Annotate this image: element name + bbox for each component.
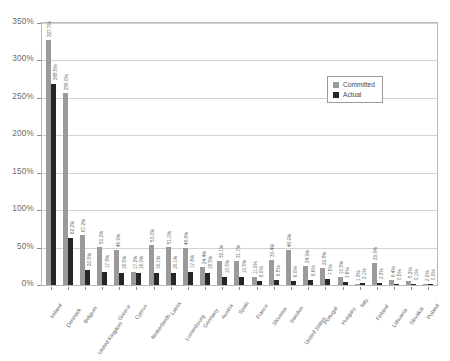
x-axis-tick-mark: [222, 287, 223, 290]
bar-value-label: 268.5%: [53, 64, 58, 80]
x-axis-category: Spain: [231, 287, 248, 361]
x-axis-tick-mark: [171, 287, 172, 290]
legend-swatch-actual-icon: [333, 92, 339, 98]
bar-value-label: 46.9%: [116, 234, 121, 247]
x-axis-category: Austria: [214, 287, 231, 361]
x-axis-category: Netherlands: [145, 287, 162, 361]
bar-value-label: 20.5%: [87, 253, 92, 266]
chart-legend: Committed Actual: [327, 76, 383, 103]
bar-group: 53.0%16.1%: [145, 23, 162, 285]
bar-group: 32.1%10.5%: [214, 23, 231, 285]
x-axis-tick-mark: [119, 287, 120, 290]
y-axis-tick: 150%: [0, 173, 41, 174]
x-axis-category: Poland: [420, 287, 437, 361]
bar-group: 256.0%62.2%: [59, 23, 76, 285]
bar-value-label: 16.0%: [138, 256, 143, 269]
bar-group: 6.4%0.5%: [385, 23, 402, 285]
x-axis-category: Lithuania: [385, 287, 402, 361]
bar-value-label: 16.1%: [156, 256, 161, 269]
x-axis-tick-mark: [343, 287, 344, 290]
bar-group: 22.8%7.5%: [317, 23, 334, 285]
bar-value-label: 10.5%: [224, 260, 229, 273]
x-axis-labels: IrelandDenmarkBelgiumUnited KingdomGreec…: [42, 287, 437, 361]
bar-value-label: 6.6%: [310, 266, 315, 276]
bar-value-label: 33.4%: [271, 244, 276, 257]
y-axis-tick-label: 100%: [12, 204, 34, 213]
bar-actual: 16.5%: [205, 273, 210, 285]
y-axis-tick-label: 300%: [12, 54, 34, 63]
x-axis-category: Luxembourg: [179, 287, 196, 361]
x-axis-tick-mark: [411, 287, 412, 290]
bar-actual: 20.5%: [85, 270, 90, 285]
bar-actual: 0.1%: [411, 284, 416, 285]
y-axis-tick: 100%: [0, 210, 41, 211]
bar-group: 327.7%268.5%: [42, 23, 59, 285]
bar-value-label: 2.1%: [362, 269, 367, 279]
x-axis-tick-mark: [325, 287, 326, 290]
y-axis-tick-label: 150%: [12, 167, 34, 176]
bar-value-label: 48.8%: [185, 232, 190, 245]
bar-group: 67.2%20.5%: [76, 23, 93, 285]
bar-group: 31.7%10.5%: [231, 23, 248, 285]
legend-swatch-committed-icon: [333, 82, 339, 88]
x-axis-category: Belgium: [76, 287, 93, 361]
bar-value-label: 24.9%: [305, 250, 310, 263]
x-axis-tick-mark: [257, 287, 258, 290]
bar-value-label: 51.0%: [167, 231, 172, 244]
x-axis-category: Hungary: [334, 287, 351, 361]
bar-value-label: 31.7%: [236, 245, 241, 258]
bar-actual: 10.5%: [239, 277, 244, 285]
y-axis-tick-label: 50%: [17, 242, 34, 251]
bar-value-label: 7.5%: [327, 265, 332, 275]
x-axis-category: Latvia: [162, 287, 179, 361]
x-axis-tick-label: Poland: [426, 303, 441, 320]
bar-value-label: 16.1%: [173, 256, 178, 269]
bar-value-label: 53.0%: [150, 229, 155, 242]
x-axis-tick-mark: [274, 287, 275, 290]
bar-value-label: 29.9%: [374, 247, 379, 260]
bar-actual: 6.0%: [291, 281, 296, 285]
y-axis-tick: 200%: [0, 135, 41, 136]
x-axis-category: United States: [300, 287, 317, 361]
y-axis-tick-label: 0%: [22, 279, 34, 288]
x-axis-category: Sweden: [282, 287, 299, 361]
bar-group: 24.9%6.6%: [300, 23, 317, 285]
y-axis-tick: 250%: [0, 98, 41, 99]
bar-committed: 29.9%: [372, 263, 377, 285]
bar-actual: 10.5%: [222, 277, 227, 285]
bar-value-label: 6.0%: [293, 266, 298, 276]
legend-label-committed: Committed: [343, 81, 375, 88]
bar-group: 1.3%2.1%: [351, 23, 368, 285]
bar-value-label: 16.5%: [121, 256, 126, 269]
bar-value-label: 17.8%: [104, 255, 109, 268]
bar-value-label: 16.5%: [207, 256, 212, 269]
x-axis-tick-mark: [360, 287, 361, 290]
bar-actual: 7.5%: [325, 279, 330, 285]
x-axis-category: Germany: [197, 287, 214, 361]
x-axis-tick-mark: [85, 287, 86, 290]
bar-value-label: 0.1%: [413, 270, 418, 280]
x-axis-category: Slovenia: [265, 287, 282, 361]
bar-actual: 62.2%: [68, 238, 73, 285]
bar-actual: 17.6%: [188, 272, 193, 285]
bar-actual: 2.3%: [377, 283, 382, 285]
x-axis-category: Denmark: [59, 287, 76, 361]
x-axis-tick-mark: [205, 287, 206, 290]
x-axis-tick-mark: [308, 287, 309, 290]
y-axis-tick-label: 250%: [12, 92, 34, 101]
bar-group: 33.4%6.5%: [265, 23, 282, 285]
bar-group: 46.9%16.5%: [111, 23, 128, 285]
bar-actual: 16.0%: [136, 273, 141, 285]
bar-actual: 16.5%: [119, 273, 124, 285]
bar-value-label: 327.7%: [47, 21, 52, 37]
bar-group: 48.8%17.6%: [179, 23, 196, 285]
bar-group: 51.0%16.1%: [162, 23, 179, 285]
x-axis-category: France: [248, 287, 265, 361]
y-axis-tick: 50%: [0, 248, 41, 249]
bar-value-label: 67.2%: [82, 219, 87, 232]
x-axis-category: Cyprus: [128, 287, 145, 361]
bar-actual: 0.5%: [394, 284, 399, 285]
y-axis-tick: 300%: [0, 60, 41, 61]
bar-value-label: 6.5%: [276, 266, 281, 276]
x-axis-tick-mark: [68, 287, 69, 290]
